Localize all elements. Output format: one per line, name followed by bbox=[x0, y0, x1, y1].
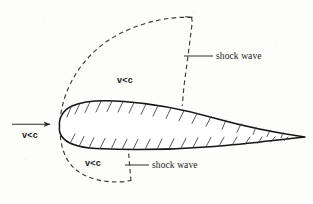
upper-shock-wave-label: shock wave bbox=[216, 52, 262, 62]
upper-shock-line bbox=[182, 17, 192, 106]
lower-shock-line bbox=[128, 147, 131, 181]
airfoil-body bbox=[59, 101, 305, 150]
lower-shock-wave-label: shock wave bbox=[152, 161, 198, 171]
figure-canvas bbox=[0, 0, 313, 204]
airfoil-shockwave-figure: v<c v<c v<c shock wave shock wave bbox=[0, 0, 313, 204]
lower-region-speed-label: v<c bbox=[85, 159, 101, 168]
inflow-speed-label: v<c bbox=[22, 131, 38, 140]
upper-region-speed-label: v<c bbox=[117, 76, 133, 85]
